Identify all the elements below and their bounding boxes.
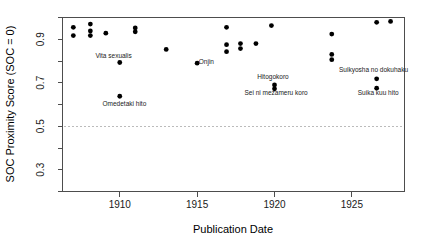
x-axis-ticks	[120, 192, 352, 197]
data-point	[374, 76, 379, 81]
y-tick-label: 0.9	[35, 32, 46, 46]
y-tick-label: 0.7	[35, 75, 46, 89]
data-point	[238, 41, 243, 46]
data-point	[269, 23, 274, 28]
data-point	[88, 22, 93, 27]
x-axis-tick-labels: 1910191519201925	[109, 199, 364, 210]
point-annotation-label: Vita sexualis	[95, 52, 132, 59]
y-tick-label: 0.3	[35, 162, 46, 176]
plot-canvas: 0.30.50.70.9 1910191519201925 Vita sexua…	[0, 0, 432, 245]
x-tick-label: 1915	[186, 199, 209, 210]
point-annotations: Vita sexualisOmedetaki hitoOnjinHitogoko…	[95, 52, 408, 107]
data-point	[117, 94, 122, 99]
data-point	[224, 49, 229, 54]
scatter-plot-figure: 0.30.50.70.9 1910191519201925 Vita sexua…	[0, 0, 432, 245]
point-annotation-label: Omedetaki hito	[103, 100, 147, 107]
data-point	[329, 32, 334, 37]
x-tick-label: 1920	[263, 199, 286, 210]
data-point	[254, 41, 259, 46]
data-point	[164, 47, 169, 52]
data-point	[224, 42, 229, 47]
data-point	[71, 25, 76, 30]
x-axis-title: Publication Date	[193, 223, 273, 235]
data-point	[329, 57, 334, 62]
data-point	[224, 25, 229, 30]
data-point	[71, 33, 76, 38]
x-tick-label: 1925	[341, 199, 364, 210]
data-point	[88, 33, 93, 38]
data-point	[388, 19, 393, 24]
data-point	[374, 20, 379, 25]
point-annotation-label: Suika kuu hito	[358, 89, 399, 96]
x-tick-label: 1910	[109, 199, 132, 210]
data-point	[117, 60, 122, 65]
y-tick-label: 0.5	[35, 119, 46, 133]
data-point	[88, 29, 93, 34]
data-point	[103, 31, 108, 36]
point-annotation-label: Hitogokoro	[257, 73, 289, 81]
y-axis-tick-labels: 0.30.50.70.9	[35, 32, 46, 177]
point-annotation-label: Sei ni mezameru koro	[244, 89, 308, 96]
y-axis-ticks	[58, 18, 63, 192]
point-annotation-label: Suikyosha no dokuhaku	[339, 66, 408, 74]
y-axis-title: SOC Proximity Score (SOC = 0)	[4, 26, 16, 183]
data-point	[133, 29, 138, 34]
data-point	[238, 46, 243, 51]
point-annotation-label: Onjin	[199, 58, 215, 66]
data-point	[329, 52, 334, 57]
